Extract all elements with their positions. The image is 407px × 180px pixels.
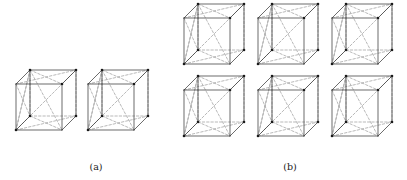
edge-bottom-left-depth (258, 122, 272, 136)
vertex-back-bottom-right (147, 115, 150, 118)
vertex-back-bottom-left (271, 49, 274, 52)
vertex-back-bottom-right (391, 49, 394, 52)
diagonal-space-1 (272, 76, 304, 136)
cube-b-6 (331, 75, 394, 138)
vertex-front-bottom-left (183, 63, 186, 66)
edge-top-left-depth (258, 76, 272, 90)
diagonal-bottom-face-2 (346, 50, 378, 64)
diagonal-left-face-3 (184, 76, 198, 136)
edge-bottom-left-depth (332, 50, 346, 64)
diagonal-top-face-2 (184, 76, 244, 90)
edge-bottom-left-depth (184, 50, 198, 64)
vertex-front-top-right (133, 83, 136, 86)
diagonal-left-face-3 (332, 76, 346, 136)
vertex-front-top-right (229, 89, 232, 92)
edge-bottom-right-depth (304, 122, 318, 136)
vertex-front-top-right (229, 17, 232, 20)
diagonal-left-face-3 (258, 4, 272, 64)
edge-top-left-depth (258, 4, 272, 18)
diagonal-top-face-2 (258, 76, 318, 90)
vertex-front-bottom-left (257, 63, 260, 66)
diagonal-top-face-2 (16, 70, 76, 84)
cube-b-3 (331, 3, 394, 66)
vertex-front-bottom-left (87, 129, 90, 132)
edge-top-right-depth (304, 76, 318, 90)
diagonal-top-face-2 (332, 76, 392, 90)
edge-top-right-depth (134, 70, 148, 84)
vertex-front-bottom-left (183, 135, 186, 138)
vertex-back-bottom-left (345, 49, 348, 52)
diagonal-bottom-face-2 (198, 50, 230, 64)
panel-a-caption: (a) (89, 161, 102, 172)
diagonal-bottom-face-2 (102, 116, 134, 130)
diagonal-space-1 (198, 76, 230, 136)
edge-top-right-depth (304, 4, 318, 18)
diagonal-space-1 (198, 4, 230, 64)
vertex-back-bottom-right (391, 121, 394, 124)
diagonal-left-face-3 (332, 4, 346, 64)
vertex-back-bottom-right (243, 121, 246, 124)
edge-bottom-left-depth (184, 122, 198, 136)
vertex-back-top-left (345, 3, 348, 6)
vertex-back-top-right (243, 3, 246, 6)
edge-top-left-depth (16, 70, 30, 84)
edge-bottom-left-depth (88, 116, 102, 130)
edge-bottom-right-depth (378, 122, 392, 136)
edge-top-left-depth (88, 70, 102, 84)
vertex-front-top-right (303, 89, 306, 92)
edge-top-left-depth (332, 4, 346, 18)
diagonal-left-face-3 (88, 70, 102, 130)
edge-top-left-depth (184, 4, 198, 18)
vertex-back-bottom-right (75, 115, 78, 118)
edge-top-right-depth (378, 4, 392, 18)
edge-top-right-depth (230, 76, 244, 90)
vertex-back-top-right (391, 75, 394, 78)
diagonal-left-face-3 (16, 70, 30, 130)
vertex-back-bottom-left (197, 121, 200, 124)
vertex-back-top-right (75, 69, 78, 72)
vertex-back-bottom-left (345, 121, 348, 124)
figure-container: (a) (b) (0, 0, 407, 180)
vertex-back-top-left (29, 69, 32, 72)
diagonal-bottom-face-2 (198, 122, 230, 136)
diagonal-space-1 (272, 4, 304, 64)
vertex-front-top-right (303, 17, 306, 20)
cube-b-2 (257, 3, 320, 66)
vertex-back-bottom-right (243, 49, 246, 52)
vertex-back-top-left (197, 75, 200, 78)
edge-top-left-depth (184, 76, 198, 90)
edge-top-right-depth (378, 76, 392, 90)
diagonal-space-1 (102, 70, 134, 130)
vertex-front-bottom-left (331, 63, 334, 66)
vertex-back-bottom-right (317, 121, 320, 124)
diagonal-left-face-3 (184, 4, 198, 64)
vertex-front-bottom-left (15, 129, 18, 132)
vertex-back-bottom-right (317, 49, 320, 52)
cube-b-4 (183, 75, 246, 138)
vertex-back-top-left (197, 3, 200, 6)
vertex-back-top-right (317, 75, 320, 78)
vertex-back-bottom-left (197, 49, 200, 52)
diagonal-left-face-3 (258, 76, 272, 136)
vertex-back-top-right (147, 69, 150, 72)
diagonal-top-face-2 (258, 4, 318, 18)
diagonal-space-1 (30, 70, 62, 130)
diagonal-space-1 (346, 76, 378, 136)
vertex-back-top-left (271, 3, 274, 6)
edge-bottom-right-depth (230, 122, 244, 136)
cube-figure-svg: (a) (b) (0, 0, 407, 180)
edge-top-left-depth (332, 76, 346, 90)
edge-bottom-left-depth (258, 50, 272, 64)
diagonal-bottom-face-2 (272, 122, 304, 136)
cube-b-1 (183, 3, 246, 66)
diagonal-top-face-2 (184, 4, 244, 18)
vertex-front-top-right (377, 89, 380, 92)
vertex-back-top-left (101, 69, 104, 72)
vertex-back-top-left (345, 75, 348, 78)
vertex-front-top-right (61, 83, 64, 86)
edge-bottom-right-depth (230, 50, 244, 64)
edge-bottom-right-depth (378, 50, 392, 64)
vertex-back-bottom-left (29, 115, 32, 118)
vertex-back-top-right (243, 75, 246, 78)
vertex-front-bottom-left (331, 135, 334, 138)
